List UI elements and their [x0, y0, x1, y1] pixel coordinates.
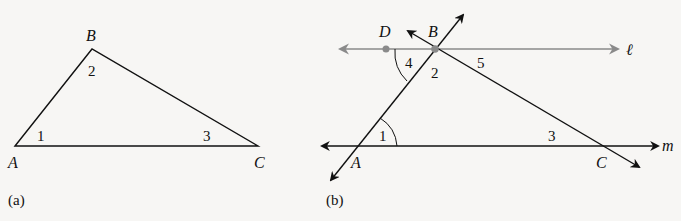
figure-a-caption: (a)	[8, 192, 25, 209]
vertex-c-label: C	[254, 154, 265, 171]
figure-b: D B A C ℓ m 4 2 5 1 3 (b)	[322, 15, 674, 209]
angle-4-label: 4	[405, 55, 413, 71]
angle-2-label: 2	[88, 63, 96, 79]
angle-3-label: 3	[203, 128, 211, 144]
point-b-label: B	[428, 23, 438, 40]
angle-2-label: 2	[431, 65, 439, 81]
point-d	[383, 46, 390, 53]
line-m-label: m	[662, 137, 674, 154]
point-c-label: C	[596, 154, 607, 171]
figure-a: B A C 2 1 3 (a)	[7, 27, 265, 209]
figure-b-caption: (b)	[326, 192, 344, 209]
angle-1-label: 1	[37, 128, 45, 144]
line-l-label: ℓ	[626, 41, 633, 58]
triangle-abc	[15, 49, 258, 146]
point-a-label: A	[350, 154, 361, 171]
angle-3-label: 3	[548, 128, 556, 144]
vertex-b-label: B	[86, 27, 96, 44]
angle-1-label: 1	[379, 128, 387, 144]
vertex-a-label: A	[7, 154, 18, 171]
diagram-canvas: B A C 2 1 3 (a) D B A C ℓ m 4 2 5 1 3	[0, 0, 681, 221]
angle-5-label: 5	[477, 55, 485, 71]
point-b	[431, 45, 439, 53]
point-d-label: D	[378, 23, 391, 40]
